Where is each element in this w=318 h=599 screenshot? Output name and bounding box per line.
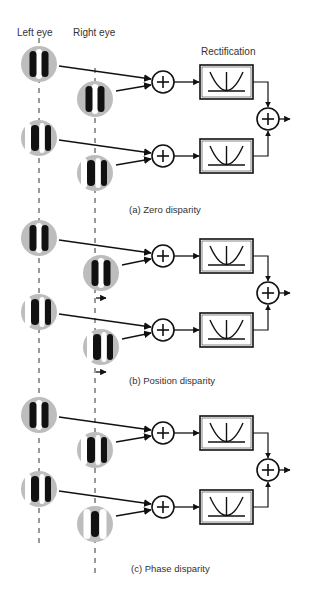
- inhibitory-band: [107, 334, 113, 360]
- rectifier-to-final-c-1: [253, 433, 268, 458]
- rectifier-b-1: [200, 239, 253, 273]
- inhibitory-band: [104, 260, 111, 286]
- inhibitory-band: [101, 437, 107, 463]
- excitatory-band: [102, 332, 107, 362]
- energy-sum-c: [257, 459, 279, 481]
- inhibitory-band: [98, 86, 105, 112]
- inhibitory-band: [45, 125, 51, 151]
- right-eye-field-c-1: [77, 432, 113, 468]
- excitatory-band: [92, 84, 98, 114]
- inhibitory-band: [42, 51, 49, 77]
- energy-sum-a: [257, 108, 279, 130]
- excitatory-band: [96, 435, 101, 465]
- excitatory-band: [36, 223, 42, 253]
- left-to-sum-arrow-a-2: [59, 140, 151, 153]
- binocular-sum-a-1: [152, 71, 174, 93]
- inhibitory-band: [30, 51, 37, 77]
- binocular-sum-c-1: [152, 422, 174, 444]
- left-to-sum-arrow-c-1: [59, 417, 151, 430]
- right-eye-field-a-2: [77, 155, 113, 191]
- excitatory-band: [25, 297, 31, 327]
- excitatory-band: [81, 435, 87, 465]
- left-eye-field-a-2: [21, 120, 57, 156]
- right-to-sum-arrow-a-2: [116, 159, 151, 165]
- left-eye-field-c-2: [21, 471, 57, 507]
- excitatory-band: [40, 297, 45, 327]
- inhibitory-band: [42, 225, 49, 251]
- rectifier-c-1: [200, 416, 253, 450]
- energy-sum-b: [257, 282, 279, 304]
- inhibitory-band: [91, 511, 99, 537]
- excitatory-band: [40, 123, 45, 153]
- left-eye-field-b-2: [21, 294, 57, 330]
- binocular-energy-diagram: Left eye Right eye Rectification (a) Zer…: [0, 0, 318, 599]
- left-to-sum-arrow-c-2: [59, 491, 151, 504]
- excitatory-band: [98, 258, 104, 288]
- excitatory-band: [81, 158, 87, 188]
- excitatory-band: [25, 474, 31, 504]
- right-eye-header: Right eye: [73, 27, 116, 38]
- left-eye-field-a-1: [21, 46, 57, 82]
- rectifier-to-final-a-1: [253, 82, 268, 107]
- left-to-sum-arrow-b-2: [59, 314, 151, 327]
- left-to-sum-arrow-a-1: [59, 66, 151, 79]
- binocular-sum-b-2: [152, 319, 174, 341]
- excitatory-band: [40, 474, 45, 504]
- inhibitory-band: [87, 437, 95, 463]
- right-to-sum-arrow-a-1: [116, 85, 151, 91]
- right-to-sum-arrow-c-2: [116, 510, 151, 516]
- caption-position-disparity: (b) Position disparity: [129, 375, 215, 386]
- rectifier-to-final-c-2: [253, 482, 268, 507]
- excitatory-band: [84, 509, 91, 539]
- right-eye-field-c-2: [77, 506, 113, 542]
- rectifier-a-1: [200, 65, 253, 99]
- excitatory-band: [25, 123, 31, 153]
- rectifier-to-final-b-1: [253, 256, 268, 281]
- left-eye-field-b-1: [21, 220, 57, 256]
- right-eye-field-b-1: [83, 255, 119, 291]
- rectification-header: Rectification: [201, 46, 255, 57]
- left-to-sum-arrow-b-1: [59, 240, 151, 253]
- binocular-sum-c-2: [152, 496, 174, 518]
- inhibitory-band: [30, 402, 37, 428]
- binocular-sum-b-1: [152, 245, 174, 267]
- binocular-sum-a-2: [152, 145, 174, 167]
- right-to-sum-arrow-c-1: [116, 436, 151, 442]
- left-eye-header: Left eye: [17, 27, 53, 38]
- inhibitory-band: [93, 334, 101, 360]
- caption-zero-disparity: (a) Zero disparity: [129, 204, 201, 215]
- excitatory-band: [36, 400, 42, 430]
- rectifier-to-final-b-2: [253, 305, 268, 330]
- excitatory-band: [96, 158, 101, 188]
- inhibitory-band: [45, 299, 51, 325]
- rectifier-c-2: [200, 490, 253, 524]
- inhibitory-band: [92, 260, 99, 286]
- inhibitory-band: [101, 160, 107, 186]
- inhibitory-band: [87, 160, 95, 186]
- inhibitory-band: [30, 225, 37, 251]
- inhibitory-band: [31, 125, 39, 151]
- right-to-sum-arrow-b-1: [122, 259, 151, 265]
- left-eye-field-c-1: [21, 397, 57, 433]
- inhibitory-band: [45, 476, 51, 502]
- excitatory-band: [36, 49, 42, 79]
- rectifier-to-final-a-2: [253, 131, 268, 156]
- right-eye-field-a-1: [77, 81, 113, 117]
- inhibitory-band: [31, 476, 39, 502]
- caption-phase-disparity: (c) Phase disparity: [131, 563, 210, 574]
- excitatory-band: [100, 509, 107, 539]
- right-to-sum-arrow-b-2: [122, 333, 151, 339]
- inhibitory-band: [42, 402, 49, 428]
- rectifier-b-2: [200, 313, 253, 347]
- excitatory-band: [87, 332, 93, 362]
- right-eye-field-b-2: [83, 329, 119, 365]
- inhibitory-band: [31, 299, 39, 325]
- inhibitory-band: [86, 86, 93, 112]
- rectifier-a-2: [200, 139, 253, 173]
